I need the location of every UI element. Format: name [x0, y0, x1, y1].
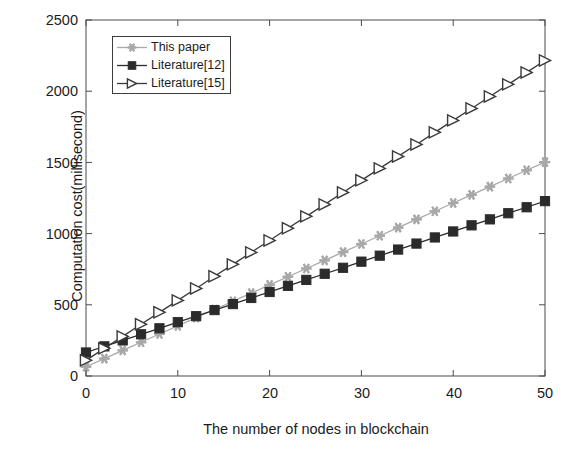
legend-swatch-literature-12: [116, 57, 148, 74]
legend: This paper Literature[12] Literature[15]: [112, 36, 231, 94]
legend-item-literature-12: Literature[12]: [113, 57, 232, 74]
legend-label-literature-12: Literature[12]: [151, 57, 225, 74]
legend-item-this-paper: This paper: [113, 39, 232, 56]
legend-label-this-paper: This paper: [151, 39, 210, 56]
legend-item-literature-15: Literature[15]: [113, 75, 232, 92]
chart-figure: Computation cost(millisecond) The number…: [0, 0, 581, 458]
legend-swatch-this-paper: [116, 39, 148, 56]
plot-area: [0, 0, 581, 458]
legend-label-literature-15: Literature[15]: [151, 75, 225, 92]
legend-swatch-literature-15: [116, 75, 148, 92]
data-series-layer: [80, 55, 550, 371]
